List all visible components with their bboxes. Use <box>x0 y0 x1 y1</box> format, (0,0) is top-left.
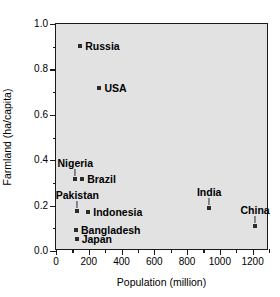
y-tick-label: 0.4 <box>34 155 48 165</box>
x-tick-label: 800 <box>179 257 196 267</box>
x-tick-major <box>253 249 254 255</box>
data-point-marker <box>86 210 90 214</box>
data-point-marker <box>80 177 84 181</box>
data-point-label: India <box>197 187 222 198</box>
data-point-label: Japan <box>82 234 112 245</box>
label-leader-line <box>75 169 76 176</box>
x-tick-label: 400 <box>113 257 130 267</box>
data-point-marker <box>75 209 79 213</box>
label-leader-line <box>77 201 78 208</box>
x-tick-minor <box>236 249 237 253</box>
y-tick-label: 0.0 <box>34 246 48 256</box>
data-point-label: Indonesia <box>93 207 142 218</box>
data-point-label: Nigeria <box>58 157 94 168</box>
y-tick-label: 0.6 <box>34 110 48 120</box>
x-tick-major <box>122 249 123 255</box>
x-axis-title: Population (million) <box>55 277 268 288</box>
data-point-label: Brazil <box>87 174 116 185</box>
x-tick-major <box>89 249 90 255</box>
y-tick-minor <box>53 92 57 93</box>
data-point-marker <box>74 228 78 232</box>
x-tick-minor <box>138 249 139 253</box>
data-point-label: Russia <box>85 40 119 51</box>
x-tick-minor <box>72 249 73 253</box>
y-tick-minor <box>53 183 57 184</box>
y-tick-major <box>50 69 56 70</box>
x-tick-label: 1000 <box>209 257 231 267</box>
y-axis-title-text: Farmland (ha/capita) <box>1 88 13 185</box>
label-leader-line <box>255 216 256 223</box>
x-tick-minor <box>105 249 106 253</box>
y-tick-major <box>50 115 56 116</box>
y-tick-major <box>50 24 56 25</box>
data-point-marker <box>207 206 211 210</box>
data-point-marker <box>75 237 79 241</box>
y-tick-major <box>50 160 56 161</box>
x-tick-label: 200 <box>80 257 97 267</box>
x-tick-minor <box>171 249 172 253</box>
y-tick-label: 0.2 <box>34 201 48 211</box>
x-tick-major <box>154 249 155 255</box>
y-tick-major <box>50 206 56 207</box>
data-point-label: China <box>240 205 269 216</box>
x-axis-title-text: Population (million) <box>117 276 206 288</box>
x-tick-major <box>56 249 57 255</box>
y-tick-minor <box>53 138 57 139</box>
x-tick-label: 1200 <box>241 257 263 267</box>
y-tick-label: 1.0 <box>34 19 48 29</box>
data-point-marker <box>97 86 101 90</box>
y-tick-label: 0.8 <box>34 64 48 74</box>
data-point-label: Pakistan <box>56 190 99 201</box>
y-tick-minor <box>53 228 57 229</box>
data-point-label: USA <box>104 82 126 93</box>
x-tick-minor <box>203 249 204 253</box>
y-axis-title: Farmland (ha/capita) <box>0 23 14 250</box>
data-point-marker <box>253 224 257 228</box>
data-point-marker <box>78 44 82 48</box>
x-tick-label: 0 <box>53 257 59 267</box>
plot-area: 0.00.20.40.60.81.0020040060080010001200 … <box>55 23 268 250</box>
x-tick-minor <box>269 249 270 253</box>
x-tick-major <box>187 249 188 255</box>
data-point-marker <box>73 177 77 181</box>
label-leader-line <box>209 198 210 205</box>
y-tick-minor <box>53 47 57 48</box>
x-tick-label: 600 <box>146 257 163 267</box>
x-tick-major <box>220 249 221 255</box>
scatter-chart: Farmland (ha/capita) 0.00.20.40.60.81.00… <box>0 0 280 297</box>
